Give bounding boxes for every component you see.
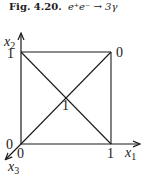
label-origin-below: 0 [17,146,24,161]
x1-axis-label: x1 [124,145,136,162]
dalitz-square-diagram: 1 0 1 0 0 1 x2 x1 x3 [0,0,143,177]
label-origin-left: 0 [6,137,13,152]
x2-axis-label: x2 [3,34,15,51]
x3-axis-label: x3 [7,159,19,176]
label-center: 1 [62,98,69,113]
label-top-right: 0 [116,45,123,60]
label-bottom-right: 1 [107,146,114,161]
